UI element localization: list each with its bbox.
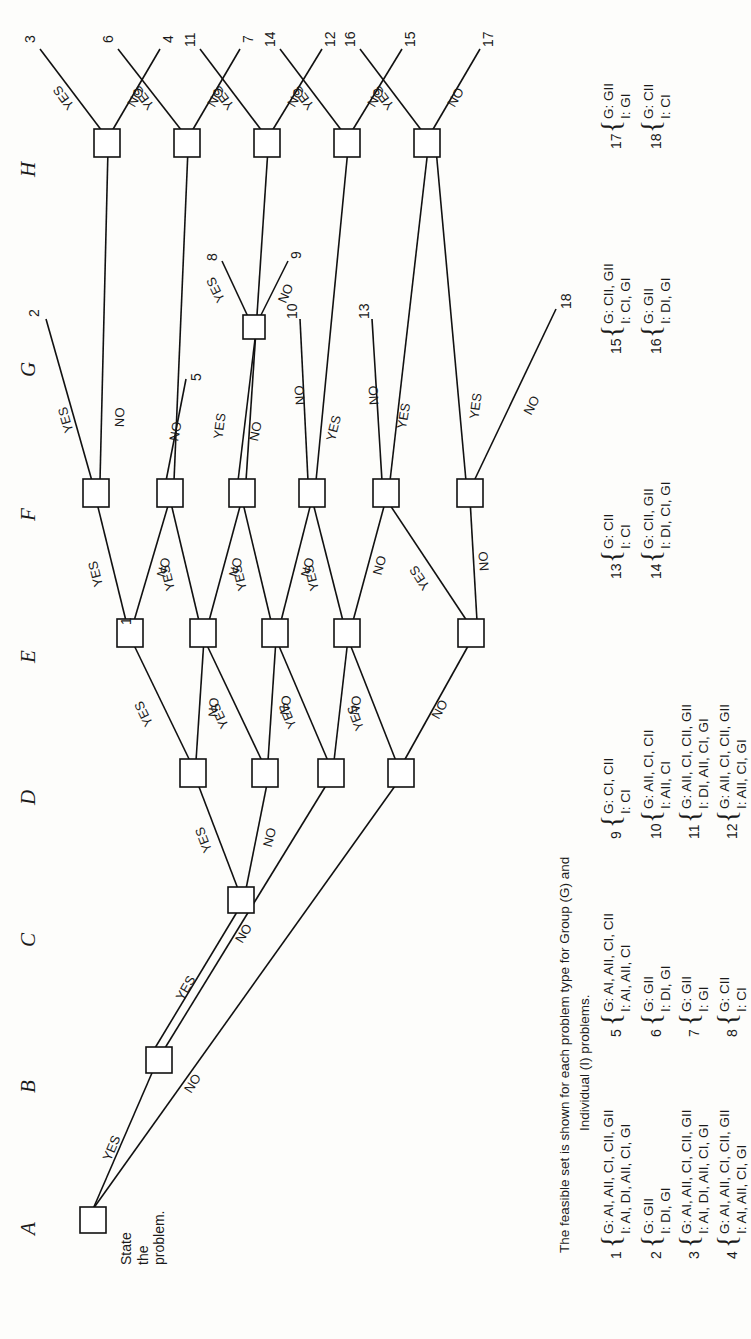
legend-item-number: 16 (648, 338, 664, 354)
legend-item-individual-line: I: DI, CI, GI (657, 481, 674, 549)
legend-item: G: AI, AII, CI, CIII: AI, AII, CI (600, 913, 635, 1012)
legend-item: G: CIII: CI (640, 84, 675, 119)
legend-item: G: CI, CIII: CI (600, 758, 635, 814)
legend-item-individual-line: I: GI (617, 83, 634, 119)
legend-note-line1: The feasible set is shown for each probl… (556, 857, 574, 1253)
legend-item-number: 18 (648, 133, 664, 149)
legend-item-number: 14 (648, 563, 664, 579)
legend-item: G: AI, AII, CI, CII, GIII: AI, DI, AII, … (600, 1109, 635, 1234)
leaf-number-16: 16 (342, 31, 358, 47)
legend-item-brace: { (676, 810, 703, 823)
legend-item-group-line: G: CII (600, 514, 617, 549)
legend-item-group-line: G: CII (640, 84, 657, 119)
leaf-number-14: 14 (262, 31, 278, 47)
legend-item-individual-line: I: GI (695, 976, 712, 1012)
legend-item: G: GIII: DI, GI (640, 1187, 675, 1234)
legend-item-brace: { (598, 815, 625, 828)
legend-item: G: AII, CI, CII, GIII: DI, AII, CI, GI (678, 704, 713, 809)
legend-item-group-line: G: AI, AII, CI, CII, GII (600, 1109, 617, 1234)
legend-item: G: GIII: GI (678, 976, 713, 1012)
legend-item-number: 15 (608, 338, 624, 354)
leaf-number-11: 11 (182, 32, 198, 47)
legend-item-individual-line: I: AII, CI, GI (733, 704, 750, 809)
legend-item-individual-line: I: DI, GI (657, 965, 674, 1012)
root-caption: State the problem. (118, 1211, 168, 1265)
legend-item-group-line: G: CII, GII (600, 263, 617, 324)
leaf-number-9: 9 (288, 251, 304, 259)
legend-item-brace: { (676, 1235, 703, 1248)
leaf-number-12: 12 (322, 31, 338, 47)
legend-item-number: 13 (608, 563, 624, 579)
legend-item: G: CIII: CI (716, 977, 751, 1012)
legend-item-individual-line: I: AI, DI, AII, CI, GI (617, 1109, 634, 1234)
legend-item-group-line: G: GII (640, 965, 657, 1012)
edge-label-no: NO (475, 551, 491, 571)
legend-item: G: GIII: DI, GI (640, 277, 675, 324)
legend-item: G: CII, GIII: CI, GI (600, 263, 635, 324)
legend-item: G: AII, CI, CIII: AII, CI (640, 729, 675, 809)
legend-item-group-line: G: CII, GII (640, 481, 657, 549)
legend-item: G: CIII: CI (600, 514, 635, 549)
leaf-number-1: 1 (118, 617, 134, 625)
legend-item-number: 11 (686, 824, 702, 839)
legend-item-individual-line: I: CI (617, 514, 634, 549)
legend-item: G: GIII: GI (600, 83, 635, 119)
leaf-number-15: 15 (402, 31, 418, 47)
legend-item-number: 6 (648, 1029, 664, 1037)
legend-item-individual-line: I: CI (733, 977, 750, 1012)
legend-item-brace: { (598, 325, 625, 338)
legend-item-group-line: G: AII, CI, CII, GII (716, 704, 733, 809)
edge-label-no: NO (291, 385, 307, 405)
legend-item-individual-line: I: AI, AII, CI (617, 913, 634, 1012)
legend-item-number: 4 (724, 1251, 740, 1259)
legend-item-group-line: G: AI, AII, CI, CII (600, 913, 617, 1012)
leaf-number-17: 17 (480, 31, 496, 47)
legend-item-number: 9 (608, 831, 624, 839)
legend-item-group-line: G: GII (640, 1187, 657, 1234)
legend-item-group-line: G: AI, AII, CI, CII, GII (678, 1109, 695, 1234)
legend-item-brace: { (598, 1013, 625, 1026)
legend-item-group-line: G: GII (678, 976, 695, 1012)
legend-item: G: GIII: DI, GI (640, 965, 675, 1012)
legend-item-number: 17 (608, 133, 624, 149)
legend-item-brace: { (676, 1013, 703, 1026)
legend-item-brace: { (638, 120, 665, 133)
legend-item-group-line: G: CI, CII (600, 758, 617, 814)
legend-item-individual-line: I: DI, AII, CI, GI (695, 704, 712, 809)
legend-item-number: 12 (724, 823, 740, 839)
legend-item-brace: { (714, 1235, 741, 1248)
root-caption-line2: the (135, 1211, 152, 1265)
legend-item-individual-line: I: CI, GI (617, 263, 634, 324)
legend-item-group-line: G: AII, CI, CII, GII (678, 704, 695, 809)
leaf-number-13: 13 (356, 303, 372, 319)
legend-item-number: 2 (648, 1251, 664, 1259)
legend-item: G: AI, AII, CI, CII, GIII: AI, AII, CI, … (716, 1109, 751, 1234)
legend-item-individual-line: I: CI (617, 758, 634, 814)
edge-label-no: NO (112, 407, 128, 427)
legend-item-individual-line: I: CI (657, 84, 674, 119)
legend-item-number: 10 (648, 823, 664, 839)
legend-item-brace: { (714, 810, 741, 823)
legend-item-brace: { (598, 550, 625, 563)
leaf-number-5: 5 (188, 373, 204, 381)
legend-item-individual-line: I: AII, CI (657, 729, 674, 809)
legend-item-number: 7 (686, 1029, 702, 1037)
leaf-number-4: 4 (160, 35, 176, 43)
leaf-number-18: 18 (558, 293, 574, 309)
leaf-number-8: 8 (204, 253, 220, 261)
edge-label-no: NO (366, 385, 382, 405)
legend-item-individual-line: I: DI, GI (657, 277, 674, 324)
legend-item-number: 1 (608, 1251, 624, 1259)
legend-item-group-line: G: GII (640, 277, 657, 324)
legend-item-group-line: G: AII, CI, CII (640, 729, 657, 809)
legend-item-brace: { (714, 1013, 741, 1026)
leaf-number-10: 10 (284, 303, 300, 319)
legend-item: G: AII, CI, CII, GIII: AII, CI, GI (716, 704, 751, 809)
legend-item: G: CII, GIII: DI, CI, GI (640, 481, 675, 549)
legend-item-brace: { (638, 1235, 665, 1248)
root-caption-line1: State (118, 1211, 135, 1265)
legend-item-number: 5 (608, 1029, 624, 1037)
